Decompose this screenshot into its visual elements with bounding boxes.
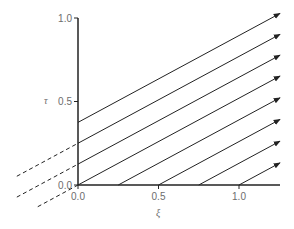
x-tick-label: 0.5	[152, 191, 166, 202]
characteristic-lines	[78, 13, 280, 185]
y-tick-label: 1.0	[58, 13, 72, 24]
characteristic-line	[78, 34, 280, 143]
x-tick-label: 1.0	[232, 191, 246, 202]
characteristic-line	[118, 98, 280, 185]
y-axis-label: τ	[44, 95, 48, 106]
axes	[78, 18, 280, 185]
characteristics-diagram: 0.00.51.00.00.51.0 τ ξ	[0, 0, 294, 229]
y-tick-label: 0.0	[58, 180, 72, 191]
characteristic-line	[78, 13, 280, 122]
characteristic-line	[159, 119, 281, 185]
x-tick-label: 0.0	[71, 191, 85, 202]
y-tick-label: 0.5	[58, 96, 72, 107]
characteristic-line	[239, 163, 280, 185]
characteristic-line	[199, 141, 280, 185]
characteristic-line	[78, 76, 280, 185]
x-axis-label: ξ	[156, 207, 161, 219]
dashed-extensions	[17, 143, 78, 206]
dashed-extension	[17, 143, 78, 176]
characteristic-line	[78, 55, 280, 164]
ticks: 0.00.51.00.00.51.0	[58, 13, 246, 203]
